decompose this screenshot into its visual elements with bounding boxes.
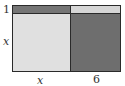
cell-bottom-left (12, 13, 71, 72)
cell-bottom-right (70, 13, 121, 72)
col-label-left: x (37, 75, 43, 86)
row-label-top: 1 (3, 4, 10, 15)
col-label-right: 6 (93, 74, 100, 85)
row-label-bottom: x (3, 36, 9, 47)
area-model-diagram: 1 x x 6 (0, 0, 125, 86)
